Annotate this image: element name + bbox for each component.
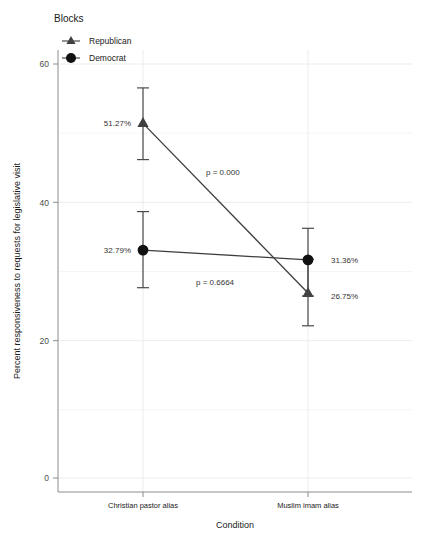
legend-title: Blocks: [54, 13, 83, 24]
x-tick-label-christian: Christian pastor alias: [108, 501, 178, 510]
legend-marker-triangle-icon: [66, 36, 75, 44]
republican-marker-christian[interactable]: [137, 117, 148, 127]
value-label-republican-christian: 51.27%: [104, 119, 131, 128]
legend-label-republican[interactable]: Republican: [89, 36, 132, 46]
value-label-democrat-muslim: 31.36%: [331, 256, 358, 265]
chart-container: 0 20 40 60 Percent responsiveness to req…: [0, 0, 428, 542]
legend: Blocks Republican Democrat: [54, 13, 132, 63]
annotations: p = 0.000 p = 0.6664: [196, 168, 240, 287]
legend-label-democrat[interactable]: Democrat: [89, 53, 126, 63]
legend-marker-circle-icon: [66, 53, 76, 63]
x-axis-title: Condition: [216, 520, 254, 530]
y-tick-label-20: 20: [40, 336, 50, 346]
x-tick-label-muslim: Muslim imam alias: [277, 501, 339, 510]
y-axis: 0 20 40 60 Percent responsiveness to req…: [12, 50, 58, 492]
democrat-p-value: p = 0.6664: [196, 278, 235, 287]
republican-p-value: p = 0.000: [206, 168, 240, 177]
y-tick-label-0: 0: [44, 473, 49, 483]
value-labels: 51.27% 32.79% 31.36% 26.75%: [104, 119, 358, 301]
democrat-marker-muslim[interactable]: [303, 255, 314, 266]
line-chart: 0 20 40 60 Percent responsiveness to req…: [0, 0, 428, 542]
republican-line: [143, 123, 308, 293]
gridlines: [58, 50, 412, 492]
y-tick-label-60: 60: [40, 59, 50, 69]
value-label-democrat-christian: 32.79%: [104, 246, 131, 255]
democrat-line: [143, 250, 308, 260]
y-axis-title: Percent responsiveness to requests for l…: [12, 162, 22, 379]
series-republican: [137, 88, 314, 326]
value-label-republican-muslim: 26.75%: [331, 292, 358, 301]
x-axis: Christian pastor alias Muslim imam alias…: [58, 492, 412, 530]
y-tick-label-40: 40: [40, 198, 50, 208]
democrat-marker-christian[interactable]: [138, 245, 149, 256]
